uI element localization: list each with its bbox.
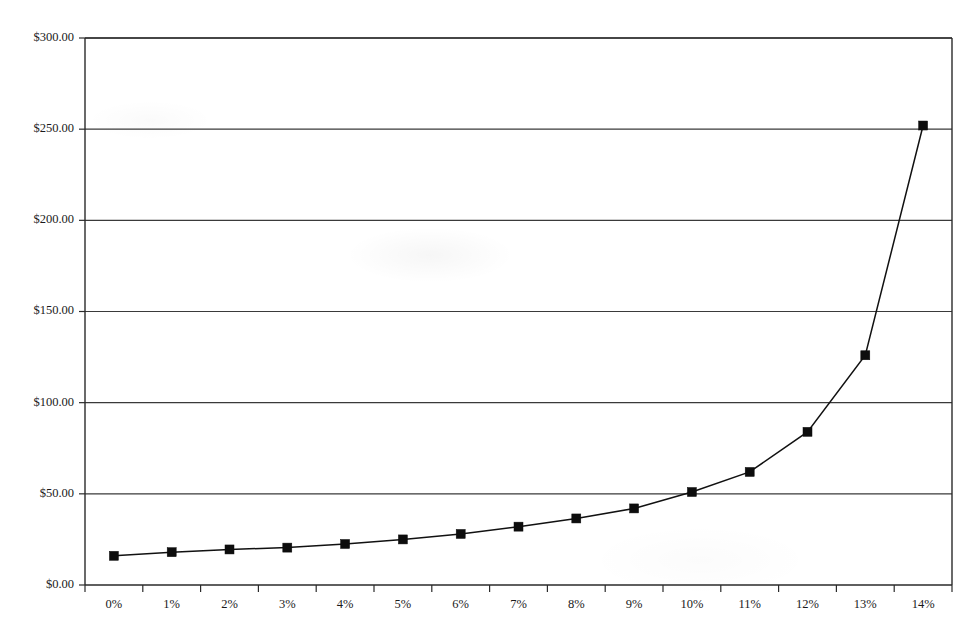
data-point-marker	[109, 551, 118, 560]
x-axis: 0%1%2%3%4%5%6%7%8%9%10%11%12%13%14%	[85, 585, 952, 611]
y-axis-tick-label: $0.00	[46, 577, 74, 591]
x-axis-tick-label: 4%	[337, 597, 354, 611]
x-axis-tick-label: 10%	[680, 597, 703, 611]
series-markers	[109, 121, 927, 560]
x-axis-tick-label: 9%	[626, 597, 643, 611]
x-axis-tick-label: 6%	[452, 597, 469, 611]
x-axis-tick-label: 0%	[106, 597, 123, 611]
data-point-marker	[861, 351, 870, 360]
x-axis-tick-label: 2%	[221, 597, 238, 611]
data-point-marker	[225, 545, 234, 554]
y-axis-tick-label: $150.00	[33, 303, 74, 317]
data-point-marker	[919, 121, 928, 130]
y-axis-tick-label: $300.00	[33, 30, 74, 44]
x-axis-tick-label: 11%	[738, 597, 760, 611]
x-axis-tick-label: 13%	[854, 597, 877, 611]
data-point-marker	[572, 514, 581, 523]
y-axis-tick-label: $50.00	[40, 486, 74, 500]
x-axis-tick-label: 14%	[912, 597, 935, 611]
data-point-marker	[630, 504, 639, 513]
data-point-marker	[514, 522, 523, 531]
series-line	[114, 126, 923, 556]
chart-page: $0.00$50.00$100.00$150.00$200.00$250.00$…	[0, 0, 977, 638]
data-point-marker	[803, 427, 812, 436]
data-point-marker	[283, 543, 292, 552]
x-axis-tick-label: 12%	[796, 597, 819, 611]
x-axis-tick-label: 3%	[279, 597, 296, 611]
y-axis-tick-label: $250.00	[33, 121, 74, 135]
data-point-marker	[341, 539, 350, 548]
data-point-marker	[456, 529, 465, 538]
x-axis-tick-label: 8%	[568, 597, 585, 611]
x-axis-tick-label: 1%	[163, 597, 180, 611]
data-point-marker	[745, 467, 754, 476]
x-axis-tick-label: 5%	[395, 597, 412, 611]
line-chart: $0.00$50.00$100.00$150.00$200.00$250.00$…	[0, 0, 977, 638]
y-axis-tick-label: $200.00	[33, 212, 74, 226]
x-axis-tick-label: 7%	[510, 597, 527, 611]
data-point-marker	[167, 548, 176, 557]
gridlines: $0.00$50.00$100.00$150.00$200.00$250.00$…	[33, 30, 952, 591]
data-point-marker	[687, 488, 696, 497]
data-point-marker	[398, 535, 407, 544]
y-axis-tick-label: $100.00	[33, 395, 74, 409]
